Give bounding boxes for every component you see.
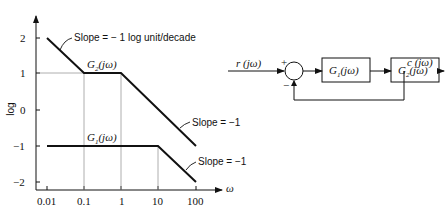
xtick-100: 100 bbox=[187, 195, 204, 207]
ytick-neg2: −2 bbox=[13, 176, 25, 188]
ytick-2: 2 bbox=[20, 32, 26, 44]
minus-sign: − bbox=[283, 79, 289, 91]
diagram-canvas bbox=[0, 0, 446, 214]
xtick-10: 10 bbox=[152, 195, 163, 207]
g2-curve bbox=[47, 38, 196, 146]
block-g1-label: G1(jω) bbox=[329, 64, 359, 81]
input-label: r (jω) bbox=[236, 57, 261, 69]
slope-top-leader bbox=[60, 38, 72, 50]
ytick-1: 1 bbox=[20, 67, 26, 79]
slope-low-leader bbox=[186, 162, 196, 170]
xtick-0.01: 0.01 bbox=[37, 195, 56, 207]
feedback-arrowhead bbox=[291, 80, 297, 86]
g1-curve bbox=[47, 146, 196, 182]
output-label: c (jω) bbox=[407, 56, 433, 68]
slope-low-annotation: Slope = −1 bbox=[198, 156, 246, 168]
g2-label: G2(jω) bbox=[87, 58, 117, 75]
slope-mid-annotation: Slope = −1 bbox=[192, 117, 240, 129]
x-axis-label: ω bbox=[226, 182, 234, 194]
ytick-neg1: −1 bbox=[13, 140, 25, 152]
xtick-1: 1 bbox=[119, 195, 125, 207]
summing-junction bbox=[285, 62, 303, 80]
y-axis-label: log bbox=[5, 102, 17, 115]
ytick-0: 0 bbox=[20, 104, 26, 116]
plus-sign: + bbox=[281, 56, 287, 68]
slope-top-annotation: Slope = − 1 log unit/decade bbox=[74, 32, 196, 44]
g1-label: G1(jω) bbox=[87, 131, 117, 148]
xtick-0.1: 0.1 bbox=[77, 195, 91, 207]
slope-mid-leader bbox=[180, 122, 190, 128]
